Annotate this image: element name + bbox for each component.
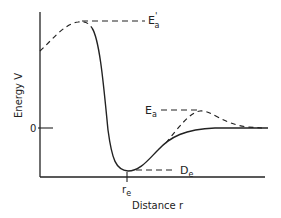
re-label: re — [122, 184, 131, 198]
dashed-barrier-left — [40, 22, 92, 51]
zero-tick-label: 0 — [30, 123, 36, 134]
potential-curve — [92, 28, 268, 171]
de-label: De — [180, 164, 193, 179]
x-axis-label: Distance r — [132, 200, 184, 211]
dashed-barrier-right — [166, 111, 262, 143]
y-axis-label: Energy V — [13, 73, 24, 118]
ea-prime-label: E'a — [148, 11, 159, 30]
potential-energy-diagram: 0 re E'a Ea De Energy V Distance r — [0, 0, 281, 218]
ea-label: Ea — [145, 104, 157, 119]
